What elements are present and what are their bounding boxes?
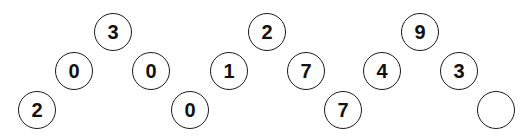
circle-g2-mid-left: 1: [210, 52, 248, 90]
circle-g1-mid-right: 0: [132, 52, 170, 90]
circle-g2-top: 2: [248, 13, 286, 51]
circle-g1-top: 3: [94, 13, 132, 51]
circle-g3-bottom-right-blank: [477, 91, 515, 129]
circle-g2-mid-right: 7: [287, 52, 325, 90]
circle-g3-top: 9: [401, 13, 439, 51]
circle-g3-mid-right: 3: [440, 52, 478, 90]
circle-g3-mid-left: 4: [363, 52, 401, 90]
circle-g1-mid-left: 0: [55, 52, 93, 90]
circle-g2-bottom-left: 0: [171, 91, 209, 129]
circle-g3-bottom-left: 7: [324, 91, 362, 129]
circle-g1-bottom-left: 2: [18, 91, 56, 129]
